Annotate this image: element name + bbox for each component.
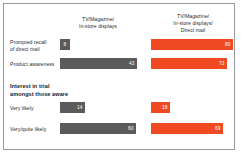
column-header-right-line3: Direct mail (151, 27, 235, 34)
row-label-very-quite-likely-line1: Very/quite likely (10, 126, 60, 133)
bar-gray-prompted-recall: 8 (60, 39, 70, 50)
row-label-very-quite-likely: Very/quite likely (10, 126, 60, 133)
section-heading-line1: Interest in trial (10, 83, 90, 91)
bar-value-gray-very-likely: 14 (77, 105, 85, 110)
chart-frame: TV/Magazine/ In-store displays TV/Magazi… (3, 3, 235, 150)
row-label-very-likely-line1: Very likely (10, 105, 60, 112)
column-header-right: TV/Magazine/ In-store displays/ Direct m… (151, 13, 235, 34)
column-header-right-line2: In-store displays/ (151, 20, 235, 27)
bar-value-gray-very-quite-likely: 60 (128, 126, 136, 131)
row-label-very-likely: Very likely (10, 105, 60, 112)
bar-value-red-product-awareness: 73 (219, 61, 227, 66)
section-heading-interest-in-trial: Interest in trial amongst those aware (10, 83, 90, 98)
bar-red-prompted-recall: 80 (151, 39, 233, 50)
row-label-product-awareness: Product awareness (10, 61, 60, 68)
row-label-prompted-recall-line2: of direct mail (10, 46, 60, 53)
bar-value-gray-prompted-recall: 8 (60, 42, 70, 47)
section-heading-line2: amongst those aware (10, 91, 90, 99)
bar-value-gray-product-awareness: 43 (129, 61, 137, 66)
bar-red-product-awareness: 73 (151, 58, 227, 69)
column-header-left: TV/Magazine/ In-store displays (60, 16, 136, 30)
column-header-left-line1: TV/Magazine/ (60, 16, 136, 23)
bar-value-red-very-quite-likely: 69 (215, 126, 223, 131)
column-header-left-line2: In-store displays (60, 23, 136, 30)
column-header-right-line1: TV/Magazine/ (151, 13, 235, 20)
bar-gray-product-awareness: 43 (60, 58, 137, 69)
bar-red-very-likely: 18 (151, 102, 170, 113)
bar-red-very-quite-likely: 69 (151, 123, 223, 134)
row-label-prompted-recall: Prompted recall of direct mail (10, 39, 60, 53)
bar-gray-very-quite-likely: 60 (60, 123, 136, 134)
bar-gray-very-likely: 14 (60, 102, 85, 113)
row-label-prompted-recall-line1: Prompted recall (10, 39, 60, 46)
bar-value-red-prompted-recall: 80 (225, 42, 233, 47)
bar-value-red-very-likely: 18 (162, 105, 170, 110)
row-label-product-awareness-line1: Product awareness (10, 61, 60, 68)
